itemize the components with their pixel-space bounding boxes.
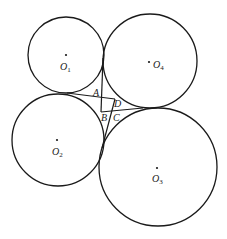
diagram-canvas: O1O4O2O3ADBC (0, 0, 227, 239)
tangent-circles-diagram: O1O4O2O3ADBC (0, 0, 227, 239)
point-label-d: D (113, 98, 122, 109)
labels-layer: O1O4O2O3ADBC (52, 54, 164, 186)
center-label-o4: O4 (153, 59, 164, 72)
center-dot-o4 (148, 61, 150, 63)
center-label-o3: O3 (152, 173, 163, 186)
point-label-b: B (101, 112, 107, 123)
tangent-lines-layer (67, 58, 143, 148)
tangent-line-1 (67, 93, 115, 99)
center-dot-o3 (156, 167, 158, 169)
center-label-o1: O1 (60, 61, 71, 74)
point-label-a: A (92, 87, 100, 98)
center-label-o2: O2 (52, 146, 63, 159)
center-dot-o2 (56, 139, 58, 141)
circle-o3 (99, 108, 217, 226)
circle-o4 (103, 14, 197, 108)
point-label-c: C (113, 112, 120, 123)
center-dot-o1 (65, 54, 67, 56)
